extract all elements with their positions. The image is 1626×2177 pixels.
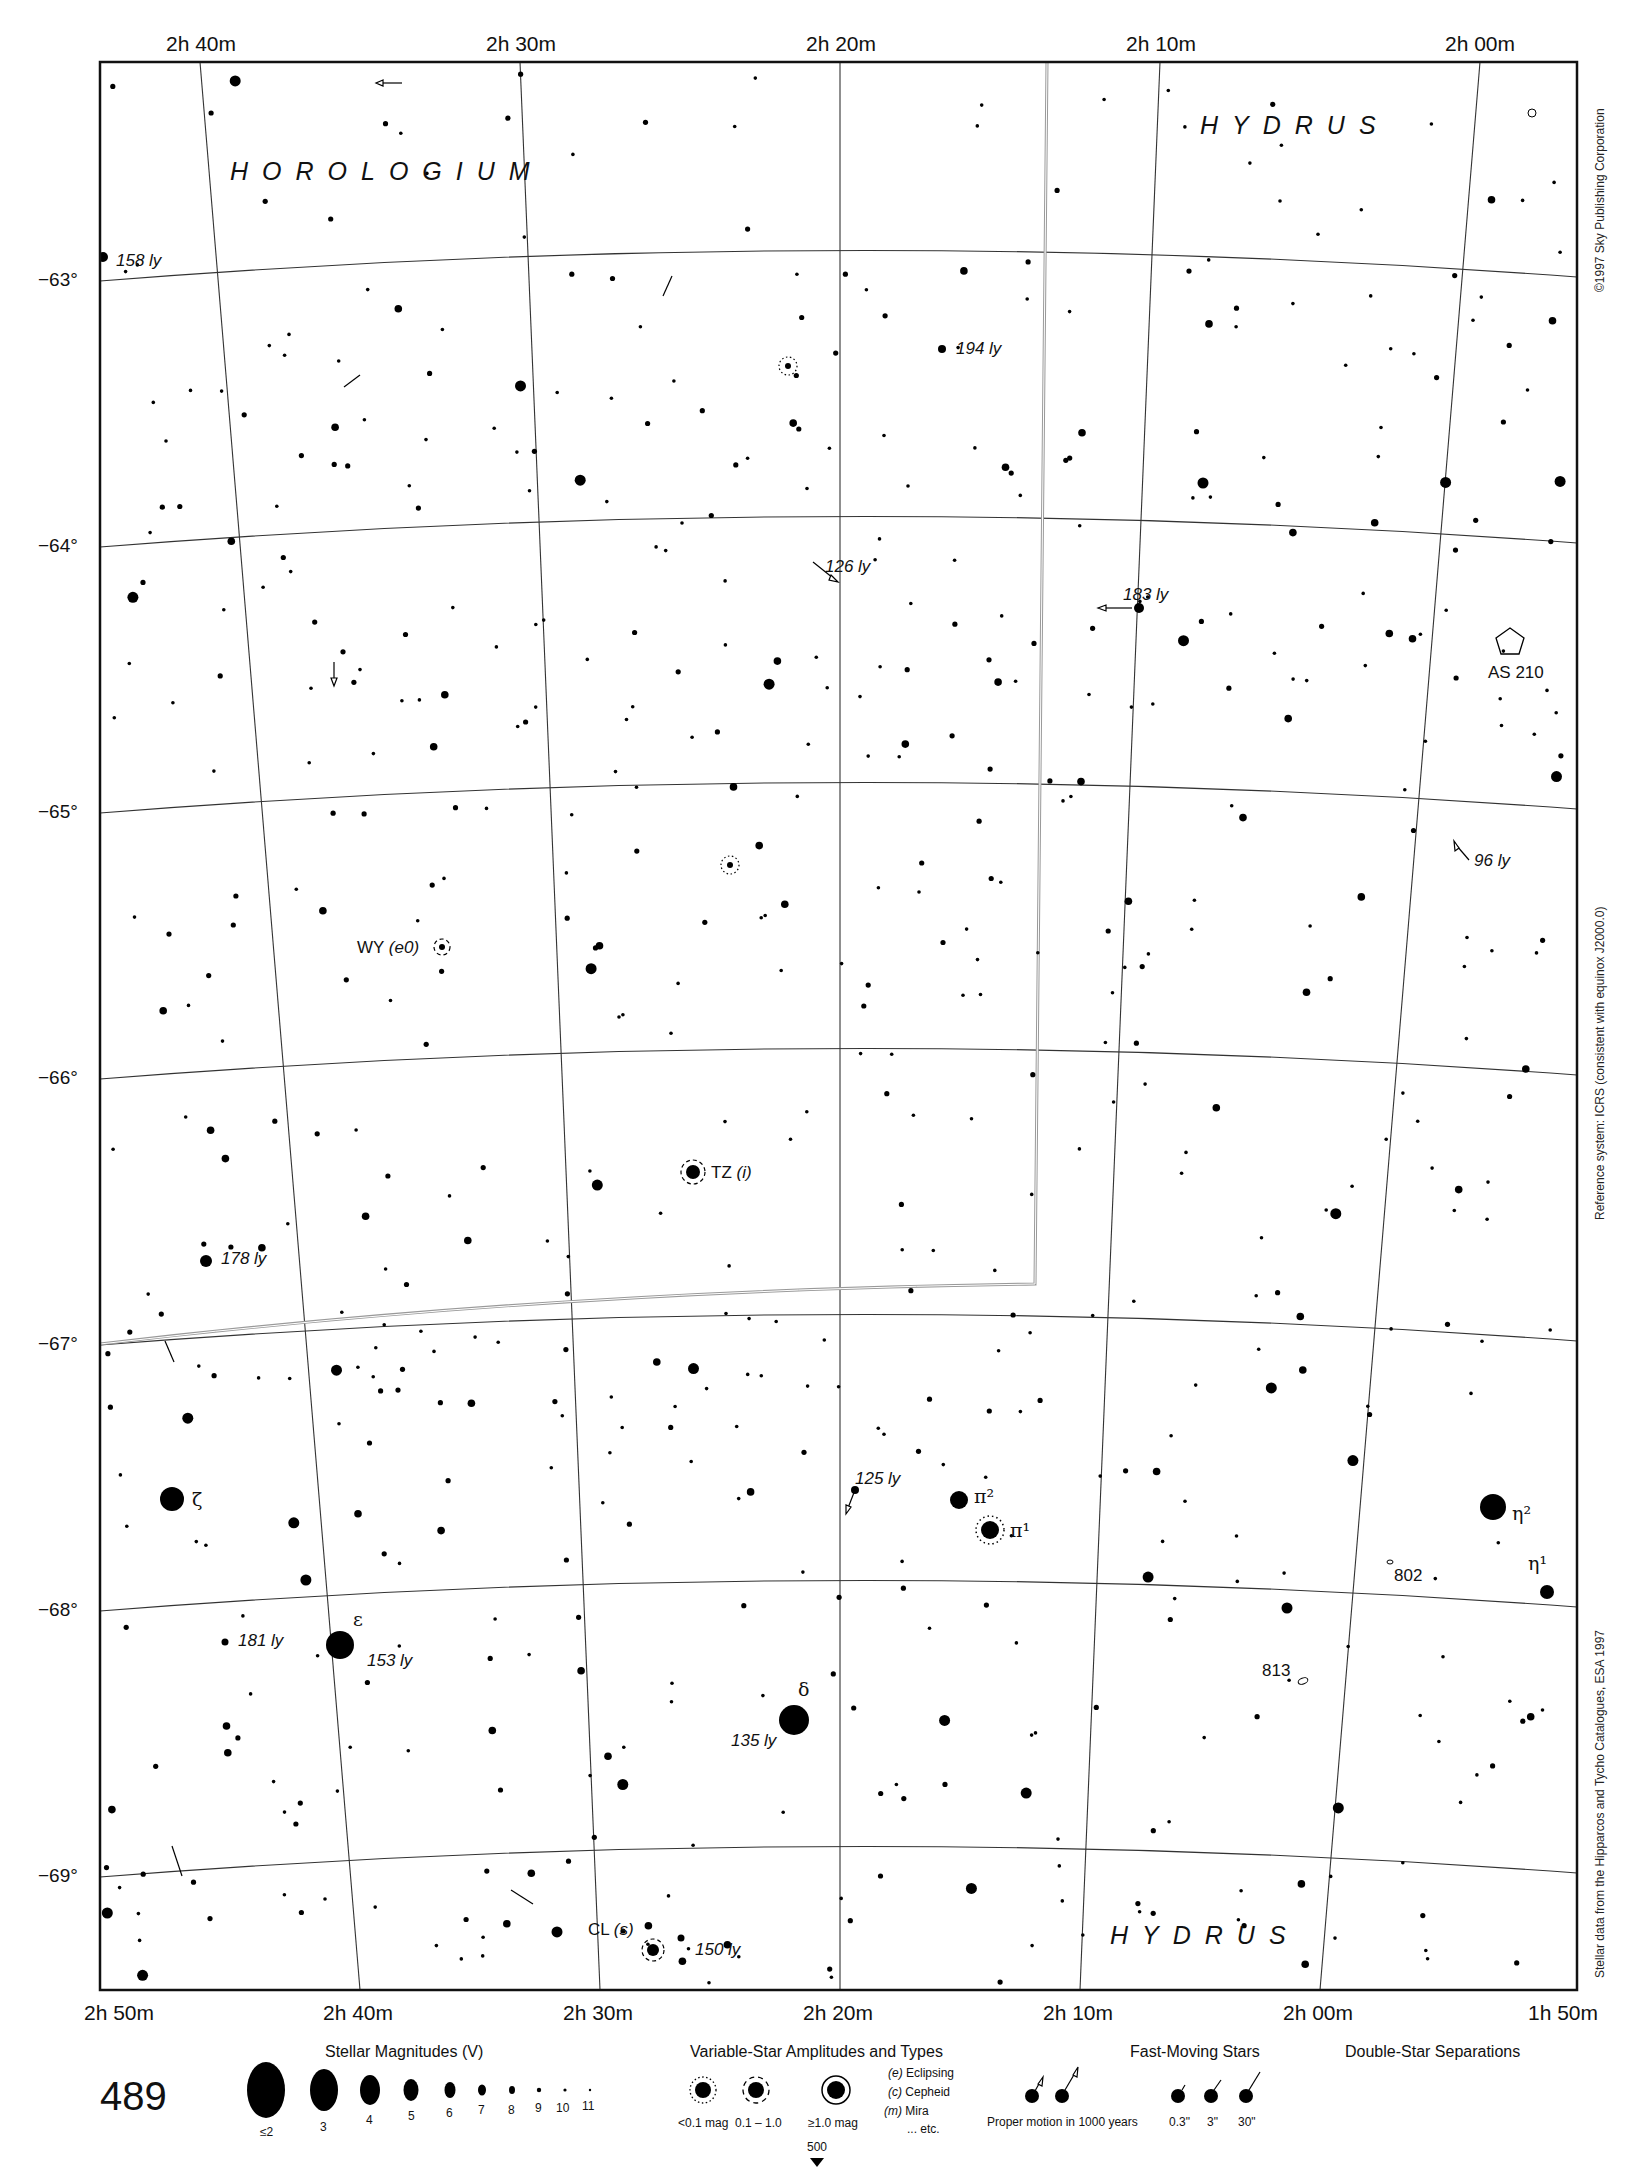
map-frame (100, 62, 1577, 1990)
star (1389, 1327, 1393, 1331)
star (182, 1413, 193, 1424)
star (1069, 795, 1073, 799)
star (999, 880, 1003, 884)
star (498, 1787, 503, 1792)
legend: 489 Stellar Magnitudes (V) ≤2 3 4 5 6 7 … (100, 2043, 1520, 2167)
star (1364, 664, 1368, 668)
star (1193, 899, 1197, 903)
star (1291, 302, 1295, 306)
star (645, 1922, 653, 1930)
star (825, 686, 829, 690)
star (331, 811, 336, 816)
variable-label-cl: CL (s) (588, 1920, 634, 1939)
ra-label: 2h 20m (803, 2001, 873, 2024)
star (223, 1722, 231, 1730)
distance-label: 96 ly (1474, 851, 1511, 870)
star (340, 1310, 344, 1314)
star (942, 1782, 947, 1787)
star (152, 401, 156, 405)
star (737, 1497, 741, 1501)
star (905, 667, 910, 672)
declination-grid (100, 250, 1577, 1877)
star (1276, 502, 1281, 507)
star (1056, 1837, 1060, 1841)
star (1488, 196, 1496, 204)
star (1299, 1366, 1307, 1374)
star (1199, 619, 1204, 624)
star (496, 1341, 500, 1345)
star (523, 235, 527, 239)
star (373, 1905, 377, 1909)
star (492, 427, 496, 431)
star (1282, 1571, 1286, 1575)
amplitude-label: 0.1 – 1.0 (735, 2116, 782, 2130)
star (625, 718, 629, 722)
star (1063, 458, 1068, 463)
star-epsilon (326, 1631, 354, 1659)
star (212, 1373, 217, 1378)
star (823, 1338, 827, 1342)
star (939, 1715, 950, 1726)
star (890, 1052, 894, 1056)
star (702, 920, 707, 925)
star (1333, 1802, 1344, 1813)
magnitude-dot-icon (310, 2069, 338, 2111)
star (865, 288, 869, 292)
deep-sky-objects: AS 210 802 813 (1262, 109, 1544, 1686)
star (307, 761, 311, 765)
star (1485, 1218, 1489, 1222)
star (895, 1783, 899, 1787)
star (1106, 928, 1111, 933)
galaxy-icon (1387, 1560, 1393, 1564)
star (146, 1292, 150, 1296)
star (1030, 1072, 1035, 1077)
star (110, 84, 115, 89)
star (950, 733, 955, 738)
star (113, 716, 117, 720)
star (528, 489, 532, 493)
star (1167, 89, 1171, 93)
star (207, 1127, 215, 1135)
star (1520, 1719, 1525, 1724)
star (830, 1976, 834, 1980)
star (1257, 1348, 1261, 1352)
star (839, 1897, 843, 1901)
star (184, 1115, 188, 1119)
star (960, 267, 968, 275)
amplitude-label: <0.1 mag (678, 2116, 728, 2130)
ra-label: 2h 00m (1445, 32, 1515, 55)
star (295, 887, 299, 891)
magnitude-label: 4 (366, 2113, 373, 2127)
star (1151, 1828, 1156, 1833)
dec-label: −63° (38, 269, 78, 290)
star (779, 969, 783, 973)
star-label-pi1: π¹ (1010, 1519, 1030, 1541)
star (493, 1617, 497, 1621)
star (505, 116, 510, 121)
star-delta (779, 1705, 809, 1735)
magnitude-scale: ≤2 3 4 5 6 7 8 9 10 11 (247, 2062, 595, 2139)
star (859, 1052, 863, 1056)
star (1034, 1731, 1038, 1735)
star (1009, 471, 1014, 476)
star (1424, 1949, 1428, 1953)
star (563, 1347, 568, 1352)
star (171, 701, 175, 705)
star (1498, 697, 1502, 701)
star (746, 456, 750, 460)
star (627, 1522, 632, 1527)
star (1416, 1120, 1420, 1124)
star (928, 1627, 932, 1631)
star (610, 276, 615, 281)
star (676, 669, 681, 674)
star (673, 1405, 677, 1409)
distance-label: 178 ly (221, 1249, 268, 1268)
star (668, 1425, 673, 1430)
star (1554, 711, 1558, 715)
star (605, 500, 609, 504)
variable-amplitude-scale: <0.1 mag 0.1 – 1.0 ≥1.0 mag (e) Eclipsin… (678, 2066, 954, 2167)
star (118, 1886, 122, 1890)
star (119, 1473, 123, 1477)
star (430, 883, 435, 888)
star (1248, 161, 1252, 165)
